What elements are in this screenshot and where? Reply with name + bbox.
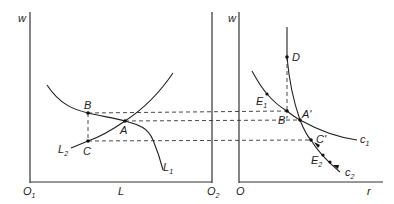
dashed-line-c-to-c-prime [88,140,311,141]
label-b-prime: B' [278,114,288,126]
label-a-prime: A' [301,108,312,120]
point-e2b [328,160,331,163]
dashed-line-b-to-b-prime [88,111,287,113]
point-b [86,111,90,115]
label-c2: c2 [345,166,355,180]
point-a [123,119,127,123]
point-d [285,55,289,59]
point-c [86,139,90,143]
label-a: A [119,124,127,136]
origin-o-label: O [236,185,245,197]
label-b: B [84,99,91,111]
label-e1: E1 [256,95,267,109]
dashed-line-a-to-a-prime [125,120,300,121]
label-l1: L1 [163,161,173,175]
label-d: D [292,51,300,63]
origin-o1-label: O1 [23,185,36,199]
left-y-axis-label: w [18,12,27,24]
point-c-prime [309,138,313,142]
origin-o2-label: O2 [207,185,220,199]
point-e1 [265,92,268,95]
label-l2: L2 [58,143,68,157]
left-x-axis-label: L [118,185,124,197]
right-y-axis-label: w [228,12,237,24]
label-c-prime: C' [316,133,327,145]
right-x-axis-label: r [367,185,372,197]
point-e2 [321,153,324,156]
diagram-canvas: w L O1 O2 B A C L2 L1 w r O D E1 B' A' C… [0,0,394,204]
curve-l1 [47,85,163,170]
curve-c2 [287,27,340,172]
point-b-prime [285,109,289,113]
label-e2: E2 [311,154,322,168]
label-c: C [83,145,91,157]
label-c1: c1 [360,133,370,147]
